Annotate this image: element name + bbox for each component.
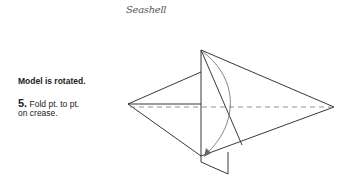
lower-right-edge	[201, 107, 334, 156]
upper-left-edge	[128, 72, 201, 104]
diagonal-edge	[201, 50, 242, 145]
lower-left-edge	[128, 104, 201, 156]
fold-diagram	[0, 0, 354, 178]
flap-bottom-edge	[201, 162, 228, 174]
fold-arrow	[203, 52, 230, 154]
arrow-head-icon	[204, 148, 211, 157]
upper-right-edge	[201, 50, 334, 107]
